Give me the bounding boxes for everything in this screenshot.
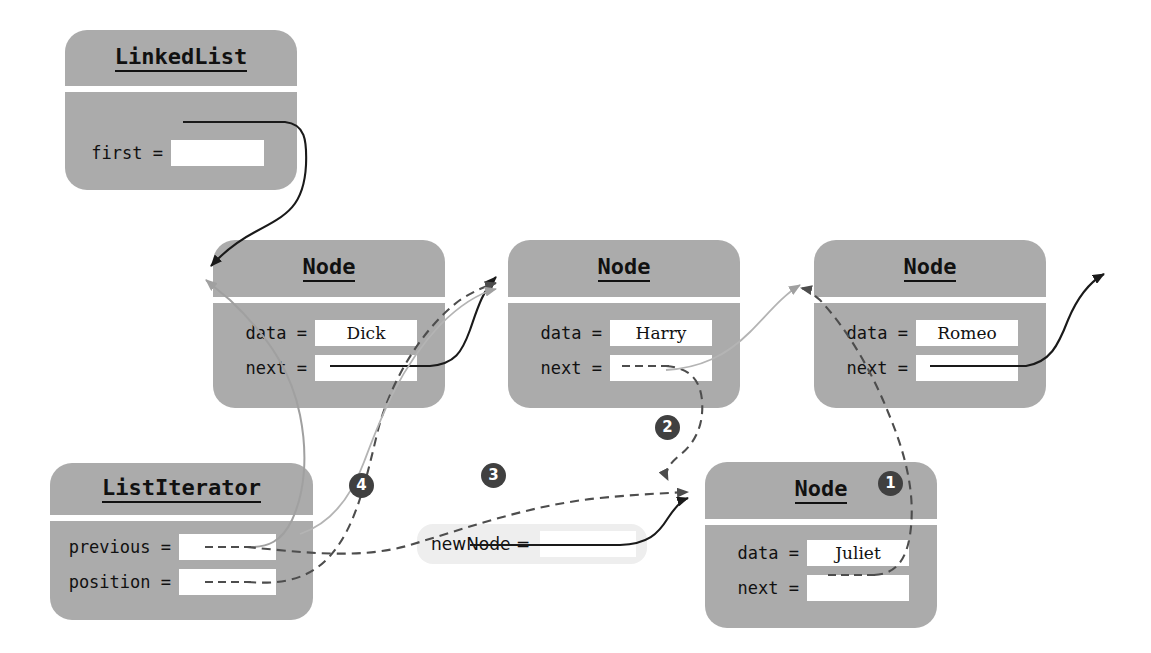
listiterator-field-position-label: position =	[68, 572, 171, 592]
node-juliet-field-data-label: data =	[733, 543, 799, 563]
node-romeo-class-name: Node	[814, 254, 1046, 282]
variable-newnode-slot	[540, 531, 636, 557]
node-juliet-field-next-label: next =	[733, 578, 799, 598]
node-romeo-field-next: next =	[842, 355, 1018, 381]
node-dick-class-name: Node	[213, 254, 445, 282]
node-dick-header-divider	[213, 297, 445, 303]
step-badge-3: 3	[481, 463, 506, 488]
node-dick-field-next: next =	[241, 355, 417, 381]
node-juliet-field-next-slot	[807, 575, 909, 601]
node-harry-field-data-value: Harry	[636, 323, 687, 343]
node-romeo-header-divider	[814, 297, 1046, 303]
listiterator-header-divider	[50, 515, 313, 521]
step-badge-4: 4	[349, 473, 374, 498]
node-harry-header-divider	[508, 297, 740, 303]
listiterator-field-previous-label: previous =	[68, 537, 171, 557]
node-dick-field-next-label: next =	[241, 358, 307, 378]
node-romeo-field-data-value: Romeo	[937, 323, 996, 343]
node-harry-field-data: data = Harry	[536, 320, 712, 346]
diagram-canvas: LinkedList first = Node data = Dick next…	[0, 0, 1151, 653]
listiterator-field-position: position =	[68, 569, 276, 595]
node-juliet-field-data: data = Juliet	[733, 540, 909, 566]
linkedlist-field-first: first =	[87, 140, 264, 166]
variable-newnode-label: newNode =	[417, 534, 530, 554]
listiterator-field-position-slot	[179, 569, 276, 595]
variable-newnode: newNode =	[417, 524, 647, 564]
node-romeo-field-next-slot	[916, 355, 1018, 381]
object-listiterator: ListIterator previous = position =	[50, 463, 313, 620]
object-node-harry: Node data = Harry next =	[508, 240, 740, 408]
linkedlist-class-name: LinkedList	[65, 44, 297, 72]
step-badge-2: 2	[655, 415, 680, 440]
node-juliet-field-data-slot: Juliet	[807, 540, 909, 566]
node-dick-field-next-slot	[315, 355, 417, 381]
object-node-romeo: Node data = Romeo next =	[814, 240, 1046, 408]
node-romeo-field-data: data = Romeo	[842, 320, 1018, 346]
node-harry-field-next-slot	[610, 355, 712, 381]
node-romeo-field-next-label: next =	[842, 358, 908, 378]
node-juliet-field-data-value: Juliet	[835, 543, 881, 563]
linkedlist-header-divider	[65, 86, 297, 92]
step-badge-3-number: 3	[488, 468, 498, 483]
node-harry-field-data-slot: Harry	[610, 320, 712, 346]
node-harry-field-next: next =	[536, 355, 712, 381]
linkedlist-field-first-label: first =	[87, 143, 163, 163]
listiterator-field-previous-slot	[179, 534, 276, 560]
step-badge-4-number: 4	[356, 478, 366, 493]
step-badge-1: 1	[878, 471, 903, 496]
node-harry-class-name: Node	[508, 254, 740, 282]
object-node-dick: Node data = Dick next =	[213, 240, 445, 408]
linkedlist-field-first-slot	[171, 140, 264, 166]
node-dick-field-data-label: data =	[241, 323, 307, 343]
node-romeo-field-data-slot: Romeo	[916, 320, 1018, 346]
step-badge-2-number: 2	[662, 420, 672, 435]
node-dick-field-data: data = Dick	[241, 320, 417, 346]
node-romeo-field-data-label: data =	[842, 323, 908, 343]
listiterator-field-previous: previous =	[68, 534, 276, 560]
node-dick-field-data-value: Dick	[347, 323, 386, 343]
node-harry-field-next-label: next =	[536, 358, 602, 378]
node-harry-field-data-label: data =	[536, 323, 602, 343]
step-badge-1-number: 1	[885, 476, 895, 491]
node-dick-field-data-slot: Dick	[315, 320, 417, 346]
listiterator-class-name: ListIterator	[50, 475, 313, 503]
node-juliet-field-next: next =	[733, 575, 909, 601]
object-linkedlist: LinkedList first =	[65, 30, 297, 190]
node-juliet-header-divider	[705, 519, 937, 525]
